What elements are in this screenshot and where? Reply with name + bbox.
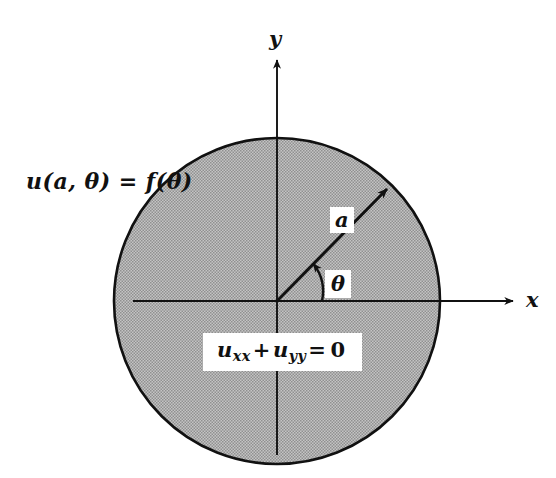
laplace-equation-box: uxx+uyy=0 [203, 333, 362, 371]
polar-disk-diagram: u(a, θ) = f(θ) a θ y x uxx+uyy=0 [0, 0, 556, 478]
equation-equals: = [306, 337, 328, 362]
x-axis-label: x [526, 289, 539, 310]
equation-u-1: u [217, 337, 233, 362]
equation-zero: 0 [328, 337, 347, 362]
theta-angle-label: θ [325, 270, 351, 298]
equation-u-2: u [273, 337, 289, 362]
equation-plus: + [251, 337, 273, 362]
equation-sub-yy: yy [289, 348, 307, 364]
equation-sub-xx: xx [233, 348, 251, 364]
y-axis-label: y [269, 28, 281, 49]
boundary-condition-label: u(a, θ) = f(θ) [26, 170, 193, 192]
diagram-canvas [0, 0, 556, 478]
radius-label: a [330, 207, 354, 233]
